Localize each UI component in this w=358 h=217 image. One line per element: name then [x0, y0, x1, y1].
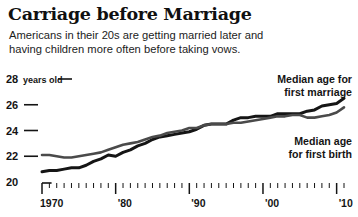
y-axis-unit-label: years old: [23, 75, 63, 85]
y-tick-label: 26: [6, 99, 18, 111]
y-tick-label: 28: [6, 73, 18, 85]
chart-plot-area: 28years old26242220 1970'80'90'00'10 Med…: [0, 0, 358, 217]
x-tick-label: 1970: [40, 197, 64, 209]
chart-figure: Carriage before Marriage Americans in th…: [0, 0, 358, 217]
y-tick-label: 24: [6, 125, 19, 137]
y-tick-label: 22: [6, 150, 18, 162]
x-tick-label: '90: [191, 197, 205, 209]
x-axis: 1970'80'90'00'10: [40, 183, 353, 209]
annotation-first-marriage: Median age for: [277, 73, 352, 85]
x-tick-label: '10: [339, 197, 353, 209]
y-tick-label: 20: [6, 176, 18, 188]
annotation-first-birth: for first birth: [288, 148, 352, 160]
annotation-first-birth: Median age: [294, 135, 352, 147]
annotation-first-marriage: first marriage: [284, 86, 352, 98]
x-tick-label: '80: [118, 197, 132, 209]
x-tick-label: '00: [265, 197, 279, 209]
